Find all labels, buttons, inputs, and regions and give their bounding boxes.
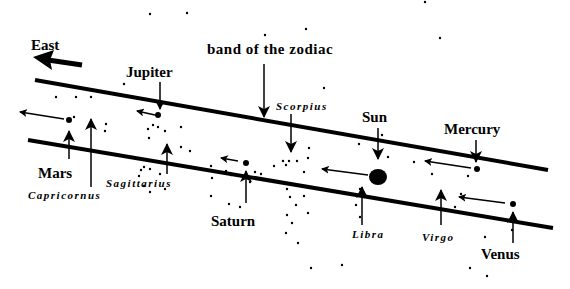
jupiter-dot: [155, 112, 161, 118]
capricornus-label: Capricornus: [28, 189, 101, 201]
scorpius-label: Scorpius: [276, 100, 328, 112]
mercury-dot: [474, 166, 480, 172]
planet-jupiter: Jupiter: [126, 64, 173, 118]
sun-motion-arrow: [322, 169, 368, 175]
mercury-motion-arrow: [425, 161, 471, 168]
jupiter-label: Jupiter: [126, 64, 173, 80]
venus-label: Venus: [481, 246, 520, 262]
planet-saturn: Saturn: [211, 158, 256, 229]
virgo-label: Virgo: [422, 231, 455, 243]
planet-venus: Venus: [459, 197, 520, 262]
mercury-label: Mercury: [444, 121, 501, 137]
mars-label: Mars: [38, 165, 72, 181]
saturn-dot: [243, 160, 249, 166]
venus-motion-arrow: [459, 197, 505, 203]
zodiac-diagram: East band of the zodiac Jupiter Mars Sat…: [0, 0, 570, 289]
zodiac-band-title: band of the zodiac: [207, 41, 333, 57]
constellation-virgo: Virgo: [422, 190, 455, 243]
east-direction-arrow: [33, 50, 82, 70]
sagittarius-label: Sagittarius: [106, 177, 172, 189]
libra-label: Libra: [351, 228, 385, 240]
saturn-motion-arrow: [221, 158, 238, 161]
planet-mercury: Mercury: [425, 121, 501, 172]
mars-dot: [66, 117, 72, 123]
planet-sun: Sun: [322, 109, 388, 185]
jupiter-motion-arrow: [137, 111, 155, 115]
constellation-sagittarius: Sagittarius: [106, 144, 172, 189]
east-label: East: [31, 37, 59, 53]
saturn-label: Saturn: [211, 213, 256, 229]
mars-motion-arrow: [20, 112, 64, 119]
sun-label: Sun: [362, 109, 388, 125]
constellation-capricornus: Capricornus: [28, 119, 101, 201]
venus-dot: [510, 201, 516, 207]
sun-disc: [369, 169, 387, 185]
